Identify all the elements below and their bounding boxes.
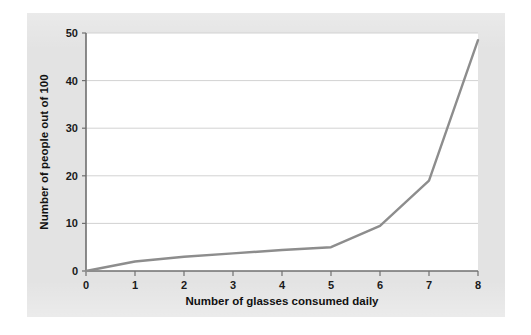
y-axis-title: Number of people out of 100 <box>38 74 50 229</box>
x-axis-tick-label: 4 <box>279 279 286 291</box>
x-axis-tick-label: 8 <box>475 279 481 291</box>
y-axis-tick-label: 40 <box>66 75 78 87</box>
x-axis-tick-label: 0 <box>83 279 89 291</box>
x-axis-tick-label: 7 <box>426 279 432 291</box>
x-axis-tick-label: 6 <box>377 279 383 291</box>
y-axis-tick-label: 10 <box>66 217 78 229</box>
x-axis-title: Number of glasses consumed daily <box>185 295 379 307</box>
x-axis-ticks-group: 012345678 <box>83 271 481 291</box>
y-axis-tick-label: 30 <box>66 122 78 134</box>
figure-root: 01020304050 012345678 Number of glasses … <box>0 0 531 335</box>
x-axis-tick-label: 2 <box>181 279 187 291</box>
y-axis-tick-label: 50 <box>66 27 78 39</box>
x-axis-tick-label: 5 <box>328 279 334 291</box>
y-axis-tick-label: 20 <box>66 170 78 182</box>
line-chart: 01020304050 012345678 Number of glasses … <box>0 0 531 335</box>
y-axis-ticks-group: 01020304050 <box>66 27 86 277</box>
x-axis-tick-label: 1 <box>132 279 138 291</box>
x-axis-tick-label: 3 <box>230 279 236 291</box>
y-axis-tick-label: 0 <box>72 265 78 277</box>
plot-area <box>86 33 478 271</box>
